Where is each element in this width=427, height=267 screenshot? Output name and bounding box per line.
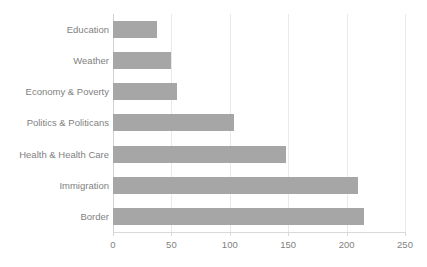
- bar-row: [113, 170, 405, 201]
- x-tick-label-0: 0: [110, 239, 115, 251]
- y-axis-label-health-health-care: Health & Health Care: [1, 149, 109, 160]
- x-tick-mark-150: [288, 232, 289, 236]
- x-tick-mark-100: [230, 232, 231, 236]
- y-axis-label-education: Education: [1, 24, 109, 35]
- x-axis-line: [113, 232, 405, 233]
- y-axis-label-immigration: Immigration: [1, 180, 109, 191]
- gridline-250: [405, 14, 406, 232]
- x-tick-label-50: 50: [166, 239, 177, 251]
- x-tick-mark-200: [347, 232, 348, 236]
- bar-row: [113, 107, 405, 138]
- y-axis-label-weather: Weather: [1, 55, 109, 66]
- bar-health-health-care: [113, 146, 286, 163]
- y-axis-label-politics-politicans: Politics & Politicans: [1, 117, 109, 128]
- bar-weather: [113, 52, 171, 69]
- bar-row: [113, 14, 405, 45]
- bar-row: [113, 201, 405, 232]
- bar-row: [113, 45, 405, 76]
- bar-border: [113, 208, 364, 225]
- plot-area: [113, 14, 405, 232]
- y-axis-label-border: Border: [1, 211, 109, 222]
- bar-row: [113, 76, 405, 107]
- bar-immigration: [113, 177, 358, 194]
- x-tick-label-200: 200: [339, 239, 355, 251]
- bar-economy-poverty: [113, 83, 177, 100]
- bar-education: [113, 21, 157, 38]
- x-tick-mark-0: [113, 232, 114, 236]
- y-axis-label-economy-poverty: Economy & Poverty: [1, 86, 109, 97]
- y-axis-category-labels: EducationWeatherEconomy & PovertyPolitic…: [0, 14, 109, 232]
- bar-chart: EducationWeatherEconomy & PovertyPolitic…: [0, 0, 427, 267]
- x-tick-label-250: 250: [397, 239, 413, 251]
- x-tick-label-150: 150: [280, 239, 296, 251]
- bar-politics-politicans: [113, 114, 234, 131]
- x-tick-mark-50: [171, 232, 172, 236]
- x-tick-label-100: 100: [222, 239, 238, 251]
- x-axis-tick-labels: 050100150200250: [113, 239, 405, 253]
- x-tick-mark-250: [405, 232, 406, 236]
- bar-row: [113, 139, 405, 170]
